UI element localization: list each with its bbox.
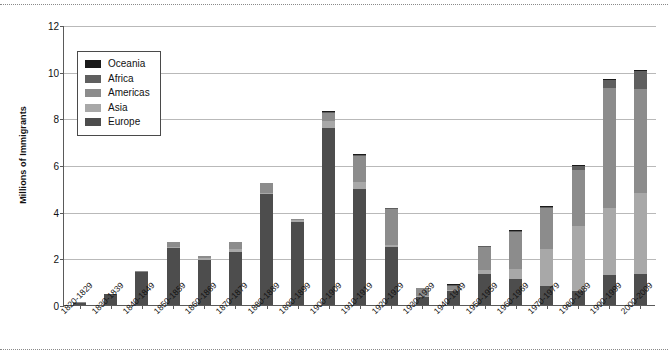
bar-slot	[313, 25, 344, 305]
x-label-slot: 1960-1969	[499, 306, 530, 354]
x-label-slot: 1910-1919	[343, 306, 374, 354]
stacked-bar[interactable]	[322, 111, 335, 305]
x-label-slot: 1920-1929	[375, 306, 406, 354]
bar-slot	[376, 25, 407, 305]
bar-slot	[594, 25, 625, 305]
x-label-slot: 1850-1859	[156, 306, 187, 354]
bar-slot	[500, 25, 531, 305]
x-label-slot: 1900-1909	[312, 306, 343, 354]
legend-item-asia[interactable]: Asia	[85, 101, 150, 116]
bar-segment-americas	[572, 170, 585, 226]
bar-segment-americas	[478, 247, 491, 270]
x-label-slot: 1940-1949	[437, 306, 468, 354]
x-label-slot: 1970-1979	[530, 306, 561, 354]
y-tick-label: 6	[53, 161, 59, 172]
y-tick-label: 4	[53, 207, 59, 218]
top-divider	[0, 4, 668, 5]
bar-slot	[251, 25, 282, 305]
bar-slot	[531, 25, 562, 305]
legend-swatch-icon	[85, 60, 101, 68]
bar-segment-africa	[634, 71, 647, 89]
bar-segment-asia	[540, 249, 553, 286]
x-label-slot: 1930-1939	[406, 306, 437, 354]
x-label-slot: 1890-1899	[281, 306, 312, 354]
bar-slot	[282, 25, 313, 305]
bar-segment-americas	[353, 156, 366, 183]
x-label-slot: 1980-1989	[562, 306, 593, 354]
x-label-slot: 1950-1959	[468, 306, 499, 354]
bar-slot	[469, 25, 500, 305]
bar-slot	[344, 25, 375, 305]
bar-slot	[438, 25, 469, 305]
stacked-bar[interactable]	[634, 70, 647, 305]
x-label-slot: 1860-1869	[188, 306, 219, 354]
x-label-slot: 1880-1889	[250, 306, 281, 354]
legend-label: Oceania	[108, 59, 145, 69]
bar-segment-asia	[603, 208, 616, 275]
x-label-slot: 1820-1829	[63, 306, 94, 354]
legend-swatch-icon	[85, 89, 101, 97]
legend-label: Europe	[108, 117, 140, 127]
bar-segment-africa	[603, 80, 616, 88]
x-label-slot: 2000-2009	[624, 306, 655, 354]
stacked-bar[interactable]	[603, 79, 616, 305]
x-label-slot: 1870-1879	[219, 306, 250, 354]
legend-swatch-icon	[85, 118, 101, 126]
bar-segment-americas	[322, 113, 335, 121]
bar-slot	[407, 25, 438, 305]
bar-segment-americas	[260, 183, 273, 193]
y-tick-label: 12	[48, 21, 59, 32]
bar-segment-europe	[322, 128, 335, 305]
bar-slot	[220, 25, 251, 305]
bar-segment-americas	[603, 88, 616, 208]
legend-swatch-icon	[85, 104, 101, 112]
legend-label: Americas	[108, 88, 150, 98]
x-axis-labels: 1820-18291830-18391840-18491850-18591860…	[63, 306, 655, 354]
bar-segment-americas	[385, 209, 398, 244]
bar-segment-asia	[322, 121, 335, 128]
bar-segment-asia	[634, 193, 647, 274]
bar-segment-americas	[229, 242, 242, 249]
legend-item-oceania[interactable]: Oceania	[85, 57, 150, 72]
x-label-slot: 1990-1999	[593, 306, 624, 354]
legend-label: Africa	[108, 74, 134, 84]
bar-segment-americas	[540, 208, 553, 249]
bar-slot	[563, 25, 594, 305]
x-label-slot: 1840-1849	[125, 306, 156, 354]
bar-slot	[625, 25, 656, 305]
y-tick-label: 2	[53, 254, 59, 265]
chart-figure: Millions of Immigrants 024681012 1820-18…	[0, 0, 668, 354]
legend-swatch-icon	[85, 75, 101, 83]
y-tick-label: 8	[53, 114, 59, 125]
bar-segment-americas	[509, 232, 522, 269]
bar-segment-asia	[509, 269, 522, 279]
x-label-slot: 1830-1839	[94, 306, 125, 354]
legend-label: Asia	[108, 103, 127, 113]
legend-item-americas[interactable]: Americas	[85, 86, 150, 101]
bar-slot	[189, 25, 220, 305]
bar-segment-americas	[634, 89, 647, 193]
y-tick-label: 10	[48, 67, 59, 78]
legend-item-europe[interactable]: Europe	[85, 115, 150, 130]
y-tick-label: 0	[53, 301, 59, 312]
y-axis-title: Millions of Immigrants	[18, 85, 28, 225]
bar-slot	[157, 25, 188, 305]
legend-item-africa[interactable]: Africa	[85, 72, 150, 87]
chart-legend: OceaniaAfricaAmericasAsiaEurope	[77, 51, 161, 136]
